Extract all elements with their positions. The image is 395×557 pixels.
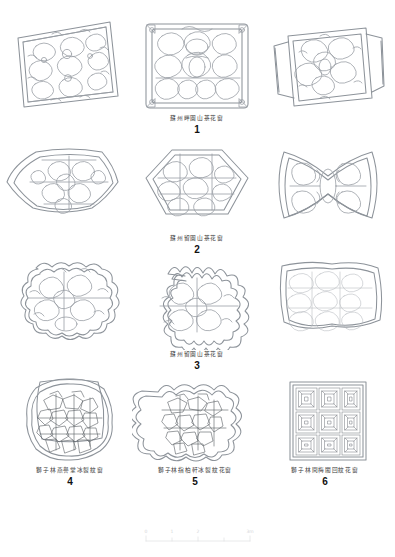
figure-1-view-elevation: 蘇州畔園山茶花窗 1 [134,14,260,135]
scale-label-2: 2 [196,529,199,534]
lattice-drawing [6,138,132,230]
figure-3-number: 3 [134,361,260,371]
figure-2-caption: 蘇州留園山茶花窗 [133,236,262,242]
figure-4-number: 4 [10,477,130,487]
figure-row-1: 蘇州畔園山茶花窗 1 [0,8,395,136]
figure-5: 獅子林指柏軒冰裂紋花窗 5 [132,374,258,487]
figure-6-caption: 獅子林問梅閣回紋花窗 [259,468,392,474]
lattice-drawing [264,140,392,232]
figure-1-number: 1 [134,125,260,135]
lattice-drawing [260,378,390,466]
lattice-drawing [134,254,260,350]
lattice-drawing [10,374,130,466]
figure-row-4: 獅子林燕譽堂冰裂紋窗 4 [0,374,395,514]
figure-2-view-hourglass [264,140,392,232]
lattice-drawing [134,142,260,234]
figure-3-caption: 蘇州留園山茶花窗 [133,352,262,358]
figure-5-number: 5 [132,477,258,487]
figure-6-number: 6 [260,477,390,487]
scale-bar: 0 1 2 3m [0,527,395,547]
lattice-drawing [6,252,132,348]
figure-3-view-cusped-square: 蘇州留園山茶花窗 3 [134,254,260,371]
figure-2-view-fan: 蘇州留園山茶花窗 2 [134,142,260,255]
figure-plate: 蘇州畔園山茶花窗 1 [0,0,395,557]
figure-4: 獅子林燕譽堂冰裂紋窗 4 [10,374,130,487]
figure-1-view-perspective-left [4,12,130,112]
lattice-drawing [134,14,260,114]
lattice-drawing [4,12,130,112]
figure-3-view-irregular-square [264,252,392,348]
scale-label-3: 3m [246,529,253,534]
figure-6: 獅子林問梅閣回紋花窗 6 [260,378,390,487]
figure-row-3: 蘇州留園山茶花窗 3 [0,252,395,374]
scale-label-1: 1 [170,529,173,534]
lattice-drawing [266,16,392,116]
figure-4-caption: 獅子林燕譽堂冰裂紋窗 [9,468,131,474]
figure-2-view-star [6,138,132,230]
lattice-drawing [132,374,258,466]
lattice-drawing [264,252,392,348]
scale-label-0: 0 [144,529,147,534]
figure-3-view-lobed-oval [6,252,132,348]
figure-row-2: 蘇州留園山茶花窗 2 [0,138,395,250]
figure-1-caption: 蘇州畔園山茶花窗 [133,116,262,122]
figure-1-view-perspective-right [266,16,392,116]
figure-5-caption: 獅子林指柏軒冰裂紋花窗 [131,468,260,474]
